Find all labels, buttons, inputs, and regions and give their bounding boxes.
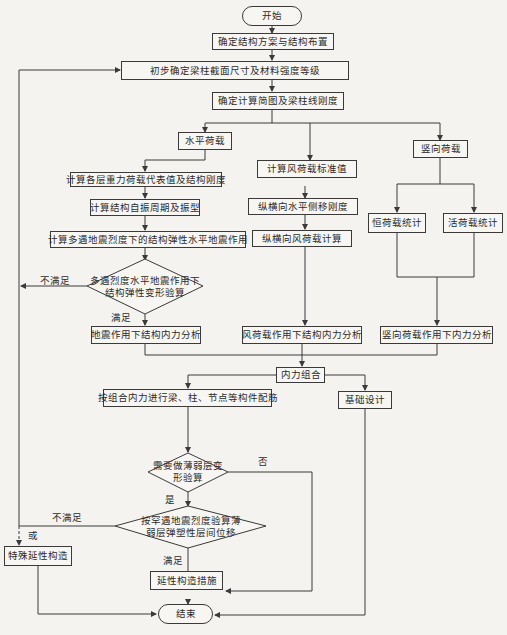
step-gravity: 计算各层重力荷载代表值及结构刚度: [70, 172, 222, 187]
step-wind-force: 风荷载作用下结构内力分析: [242, 326, 362, 344]
step-ductile: 延性构造措施: [150, 571, 223, 590]
start-terminal: 开始: [242, 6, 302, 26]
step-period: 计算结构自振周期及振型: [90, 199, 200, 216]
decision-weak-layer-need: 需要做薄弱层变 形验算: [148, 460, 228, 484]
label-no: 否: [258, 456, 268, 467]
end-terminal: 结束: [158, 604, 213, 624]
label-satisfied-2: 满足: [163, 555, 183, 566]
step-wind-std: 计算风荷载标准值: [257, 160, 357, 178]
step-vertical-load: 竖向荷载: [413, 140, 468, 158]
step-live-load: 活荷载统计: [443, 213, 503, 233]
decision-elastic-check: 多遇烈度水平地震作用下 结构弹性变形验算: [87, 274, 203, 300]
step-layout: 确定结构方案与结构布置: [212, 33, 334, 50]
label-yes: 是: [165, 494, 175, 505]
step-combine: 内力组合: [276, 367, 325, 383]
decision-rare-check: 按罕遇地震烈度验算薄 弱层弹塑性层间位移: [115, 514, 266, 540]
step-horizontal-load: 水平荷载: [178, 132, 232, 150]
step-special-ductile: 特殊延性构造: [4, 546, 72, 566]
step-wind-calc: 纵横向风荷载计算: [252, 230, 352, 247]
step-dead-load: 恒荷载统计: [368, 213, 426, 233]
label-or: 或: [28, 530, 38, 541]
label-not-satisfied-1: 不满足: [40, 275, 70, 286]
step-preliminary: 初步确定梁柱截面尺寸及材料强度等级: [121, 61, 349, 80]
step-seismic-force: 地震作用下结构内力分析: [91, 326, 201, 344]
label-satisfied-1: 满足: [111, 312, 131, 323]
step-vertical-force: 竖向荷载作用下内力分析: [380, 326, 493, 344]
step-reinforce: 按组合内力进行梁、柱、节点等构件配筋: [103, 389, 272, 407]
step-seismic: 计算多遇地震烈度下的结构弹性水平地震作用: [50, 231, 246, 248]
label-not-satisfied-2: 不满足: [52, 512, 82, 523]
step-diagram: 确定计算简图及梁柱线刚度: [212, 92, 344, 110]
step-foundation: 基础设计: [338, 391, 392, 409]
step-lateral-stiffness: 纵横向水平侧移刚度: [248, 198, 358, 215]
